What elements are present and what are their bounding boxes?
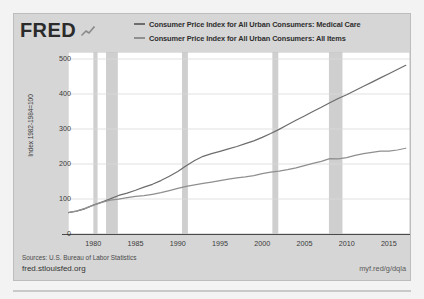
fred-graph-card: FRED Consumer Price Index for All Urban …: [13, 13, 411, 281]
x-tick-label: 1985: [116, 239, 156, 248]
legend-swatch-icon: [134, 37, 145, 39]
fred-logo[interactable]: FRED: [20, 20, 76, 40]
recession-band: [182, 52, 188, 234]
recession-band: [106, 52, 118, 234]
series-line-2: [68, 148, 406, 212]
recession-band: [272, 52, 278, 234]
x-tick-label: 1990: [158, 239, 198, 248]
y-tick-label: 200: [39, 159, 71, 168]
x-tick-label: 2005: [284, 239, 324, 248]
x-tick-label: 2010: [327, 239, 367, 248]
x-tick-label: 2000: [242, 239, 282, 248]
plot-border: [68, 52, 410, 234]
chart-legend: Consumer Price Index for All Urban Consu…: [134, 18, 406, 46]
x-tick-label: 1980: [73, 239, 113, 248]
chart-header: FRED Consumer Price Index for All Urban …: [14, 14, 412, 52]
series-line-1: [68, 65, 406, 212]
sources-text: Sources: U.S. Bureau of Labor Statistics: [22, 254, 136, 261]
legend-swatch-icon: [134, 23, 145, 25]
recession-band: [93, 52, 97, 234]
y-tick-label: 100: [39, 194, 71, 203]
page-divider: [13, 290, 411, 292]
recession-band: [329, 52, 343, 234]
plot-area[interactable]: [68, 52, 410, 234]
y-tick-label: 500: [39, 54, 71, 63]
x-axis-ticks: 19801985199019952000200520102015: [68, 235, 410, 251]
y-tick-label: 400: [39, 89, 71, 98]
legend-item-medical-care[interactable]: Consumer Price Index for All Urban Consu…: [134, 18, 406, 30]
legend-label-medical-care: Consumer Price Index for All Urban Consu…: [149, 20, 361, 29]
chart-svg: [68, 52, 410, 234]
legend-label-all-items: Consumer Price Index for All Urban Consu…: [149, 34, 346, 43]
line-chart-mark-icon: [81, 25, 96, 37]
screenshot-page: FRED Consumer Price Index for All Urban …: [0, 0, 424, 299]
fred-site-url[interactable]: fred.stlouisfed.org: [22, 264, 86, 273]
x-tick-label: 2015: [369, 239, 409, 248]
y-tick-label: 300: [39, 124, 71, 133]
chart-body: Index 1982-1984=100 19801985199019952000…: [14, 48, 412, 254]
chart-footer: Sources: U.S. Bureau of Labor Statistics…: [14, 252, 412, 280]
y-axis-label: Index 1982-1984=100: [27, 79, 34, 173]
legend-item-all-items[interactable]: Consumer Price Index for All Urban Consu…: [134, 32, 406, 44]
graph-short-url[interactable]: myf.red/g/dqla: [359, 264, 406, 273]
x-tick-label: 1995: [200, 239, 240, 248]
y-tick-label: 0: [39, 229, 71, 238]
